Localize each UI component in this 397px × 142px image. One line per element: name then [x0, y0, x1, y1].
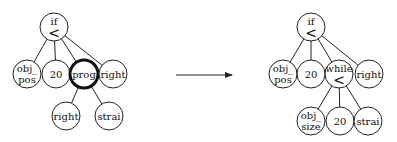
node-label: right	[54, 111, 79, 122]
tree-node-if: if<	[40, 13, 68, 41]
node-label: size	[301, 121, 321, 132]
operator-label: <	[333, 72, 345, 88]
tree-node-obj-size: obj_size	[297, 107, 325, 135]
tree-node-n20: 20	[297, 60, 325, 88]
tree-node-while: while<	[325, 60, 353, 88]
tree-diagram: if<obj_pos20progrightrightstrai if<obj_p…	[0, 0, 397, 142]
node-label: right	[101, 69, 126, 80]
node-label: pos	[274, 74, 292, 85]
node-label: 20	[305, 69, 318, 80]
tree-node-strai: strai	[95, 102, 123, 130]
node-label: strai	[356, 116, 379, 127]
node-label: 20	[50, 69, 63, 80]
tree-node-strai: strai	[354, 107, 382, 135]
node-label: strai	[97, 111, 120, 122]
tree-node-if: if<	[297, 13, 325, 41]
tree-node-obj-pos: obj_pos	[269, 60, 297, 88]
operator-label: <	[305, 25, 317, 41]
tree-node-n20: 20	[42, 60, 70, 88]
node-label: pos	[18, 74, 36, 85]
tree-node-prog: prog	[70, 60, 98, 88]
tree-node-obj-pos: obj_pos	[13, 60, 41, 88]
tree-node-n20b: 20	[326, 107, 354, 135]
node-label: 20	[334, 116, 347, 127]
original-tree: if<obj_pos20progrightrightstrai	[13, 13, 127, 130]
tree-node-right: right	[99, 60, 127, 88]
transformed-tree: if<obj_pos20while<rightobj_size20strai	[269, 13, 383, 135]
node-label: prog	[72, 69, 96, 80]
tree-node-right2: right	[52, 102, 80, 130]
tree-node-right: right	[355, 60, 383, 88]
node-label: right	[357, 69, 382, 80]
operator-label: <	[48, 25, 60, 41]
